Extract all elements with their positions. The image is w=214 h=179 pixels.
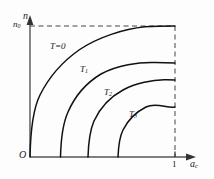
curve-label-t2: T2 (104, 88, 112, 98)
curve-label-t0: T=0 (50, 42, 66, 51)
x-axis-subscript: c (195, 162, 198, 169)
x-axis-tick-one-label: 1 (172, 160, 177, 169)
y-axis-label: n (23, 11, 28, 21)
y-tick-subscript: 0 (18, 23, 21, 29)
curve-label-t2-subscript: 2 (109, 91, 112, 97)
figure-container: n n0 O 1 ac T=0 T1 T2 T3 (0, 0, 214, 179)
curve-t3 (118, 105, 175, 157)
x-axis-label: ac (190, 159, 198, 170)
origin-label: O (19, 150, 26, 160)
curve-t1 (61, 62, 176, 157)
curve-label-t1-subscript: 1 (85, 68, 88, 74)
y-axis-max-tick-label: n0 (13, 20, 20, 30)
curve-label-t1: T1 (80, 65, 88, 75)
y-axis (27, 15, 34, 157)
curve-label-t3: T3 (129, 110, 137, 120)
curve-label-t3-subscript: 3 (134, 113, 137, 119)
